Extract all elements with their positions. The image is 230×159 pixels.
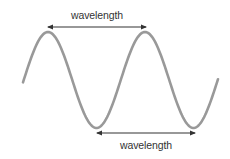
wave-diagram [0, 0, 230, 159]
wavelength-label-top: wavelength [71, 9, 123, 21]
sine-wave [23, 32, 218, 128]
wavelength-label-bottom: wavelength [120, 139, 172, 151]
